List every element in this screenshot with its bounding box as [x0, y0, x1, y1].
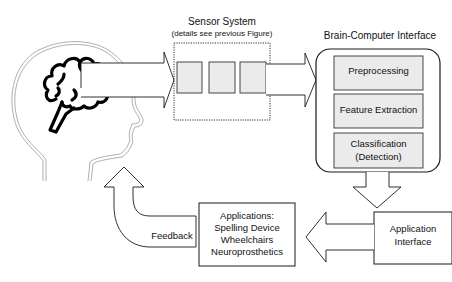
application-wheelchairs: Wheelchairs	[199, 235, 295, 246]
sensor-block-1	[177, 62, 202, 93]
feedback-label: Feedback	[148, 231, 196, 242]
classification-label: Classification	[334, 139, 423, 150]
signal-arrow-to-bci	[266, 53, 316, 107]
arrow-to-app-interface	[353, 172, 401, 208]
app-interface-line1: Application	[374, 224, 452, 235]
bci-title: Brain-Computer Interface	[318, 30, 442, 42]
sensor-system-subtitle: (details see previous Figure)	[164, 29, 280, 38]
arrow-to-applications	[306, 212, 374, 262]
application-spelling-device: Spelling Device	[199, 223, 295, 234]
application-neuroprosthetics: Neuroprosthetics	[199, 247, 295, 258]
preprocessing-label: Preprocessing	[334, 66, 423, 77]
detection-label: (Detection)	[334, 152, 423, 163]
applications-heading: Applications:	[199, 211, 295, 222]
sensor-block-2	[209, 62, 235, 93]
head-silhouette-icon	[12, 42, 143, 181]
feature-extraction-label: Feature Extraction	[334, 105, 423, 116]
sensor-system-title: Sensor System	[174, 16, 270, 28]
sensor-block-3	[240, 62, 266, 93]
app-interface-line2: Interface	[374, 237, 452, 248]
signal-arrow-to-sensor	[81, 52, 174, 108]
